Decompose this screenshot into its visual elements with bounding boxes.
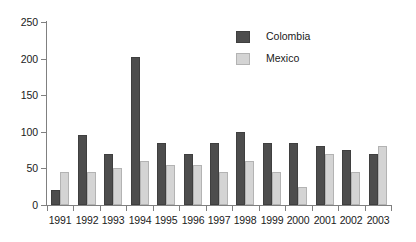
bar-mexico-2003 <box>378 146 387 205</box>
bar-colombia-2002 <box>342 150 351 205</box>
bar-mexico-2001 <box>325 154 334 205</box>
y-axis-label: 200 <box>4 54 38 64</box>
y-axis-tick <box>41 22 46 23</box>
bar-colombia-2003 <box>369 154 378 205</box>
y-axis-label: 100 <box>4 127 38 137</box>
y-axis-label: 150 <box>4 90 38 100</box>
bar-colombia-1995 <box>157 143 166 205</box>
y-axis-label: 0 <box>4 200 38 210</box>
x-axis-tick <box>73 206 74 211</box>
bar-colombia-1997 <box>210 143 219 205</box>
x-axis-tick <box>153 206 154 211</box>
y-axis-label-wrap: 200 <box>0 54 38 64</box>
y-axis-label: 50 <box>4 163 38 173</box>
bar-colombia-1992 <box>78 135 87 205</box>
legend-swatch-mexico <box>236 53 250 65</box>
bar-mexico-1999 <box>272 172 281 205</box>
y-axis-tick <box>41 132 46 133</box>
x-axis-tick <box>232 206 233 211</box>
bar-mexico-1997 <box>219 172 228 205</box>
y-axis-label-wrap: 100 <box>0 127 38 137</box>
bar-mexico-1993 <box>113 168 122 205</box>
y-axis-tick <box>41 95 46 96</box>
bar-colombia-1999 <box>263 143 272 205</box>
x-axis-tick <box>285 206 286 211</box>
bar-colombia-2000 <box>289 143 298 205</box>
bar-colombia-2001 <box>316 146 325 205</box>
bar-mexico-2002 <box>351 172 360 205</box>
y-axis-tick <box>41 168 46 169</box>
x-axis-tick <box>259 206 260 211</box>
legend-label-mexico: Mexico <box>266 52 299 65</box>
bar-chart: 050100150200250 199119921993199419951996… <box>0 0 416 242</box>
bar-colombia-1991 <box>51 190 60 205</box>
bar-colombia-1994 <box>131 57 140 205</box>
x-axis-tick <box>126 206 127 211</box>
bar-mexico-1992 <box>87 172 96 205</box>
bar-mexico-1995 <box>166 165 175 205</box>
y-axis-label-wrap: 250 <box>0 17 38 27</box>
bar-mexico-2000 <box>298 187 307 205</box>
bar-mexico-1998 <box>245 161 254 205</box>
x-axis-tick <box>391 206 392 211</box>
legend-label-colombia: Colombia <box>266 30 310 43</box>
bar-colombia-1993 <box>104 154 113 205</box>
x-axis-label: 2003 <box>361 214 395 226</box>
x-axis-tick <box>338 206 339 211</box>
x-axis-tick <box>206 206 207 211</box>
bar-colombia-1996 <box>184 154 193 205</box>
y-axis-label-wrap: 150 <box>0 90 38 100</box>
y-axis-label-wrap: 50 <box>0 163 38 173</box>
x-axis-tick <box>365 206 366 211</box>
x-axis-tick <box>100 206 101 211</box>
y-axis-label-wrap: 0 <box>0 200 38 210</box>
plot-area <box>47 22 391 205</box>
x-axis-tick <box>179 206 180 211</box>
bar-mexico-1996 <box>193 165 202 205</box>
legend-swatch-colombia <box>236 31 250 43</box>
y-axis-label: 250 <box>4 17 38 27</box>
bar-colombia-1998 <box>236 132 245 205</box>
x-axis-tick <box>47 206 48 211</box>
x-axis-line <box>46 205 392 206</box>
bar-mexico-1994 <box>140 161 149 205</box>
y-axis-tick <box>41 59 46 60</box>
x-axis-tick <box>312 206 313 211</box>
y-axis-tick <box>41 205 46 206</box>
bar-mexico-1991 <box>60 172 69 205</box>
